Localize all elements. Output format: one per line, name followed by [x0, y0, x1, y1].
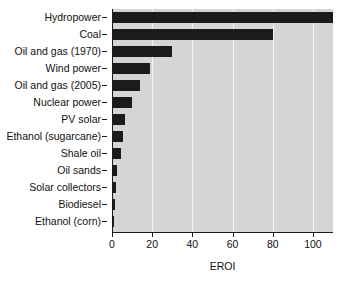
category-label: Oil and gas (2005) — [15, 77, 101, 94]
category-tick-mark — [102, 85, 107, 86]
category-tick-mark — [102, 17, 107, 18]
bar-row — [112, 213, 333, 230]
bar-row — [112, 26, 333, 43]
bar — [112, 12, 333, 23]
bar-row — [112, 77, 333, 94]
category-label: Wind power — [46, 60, 101, 77]
x-axis-tick-label: 0 — [109, 238, 115, 250]
bar-row — [112, 9, 333, 26]
category-label: Oil and gas (1970) — [15, 43, 101, 60]
x-axis-tick-label: 20 — [146, 238, 158, 250]
bar-row — [112, 179, 333, 196]
bar — [112, 46, 172, 57]
x-axis-tick — [273, 233, 274, 237]
bar-row — [112, 196, 333, 213]
bar — [112, 63, 150, 74]
x-axis-line — [112, 232, 333, 233]
category-tick-mark — [102, 34, 107, 35]
category-tick-mark — [102, 102, 107, 103]
x-axis-tick-label: 80 — [267, 238, 279, 250]
bar-row — [112, 60, 333, 77]
category-label: Ethanol (sugarcane) — [6, 128, 101, 145]
category-tick-mark — [102, 153, 107, 154]
bar-row — [112, 111, 333, 128]
eroi-bar-chart: HydropowerCoalOil and gas (1970)Wind pow… — [0, 0, 347, 284]
bar-row — [112, 162, 333, 179]
x-axis-tick — [192, 233, 193, 237]
category-label: Biodiesel — [58, 196, 101, 213]
category-label: Solar collectors — [29, 179, 101, 196]
category-label: Oil sands — [57, 162, 101, 179]
bar — [112, 131, 123, 142]
bar-row — [112, 43, 333, 60]
x-axis-tick — [112, 233, 113, 237]
x-axis-title: EROI — [112, 260, 333, 272]
category-label: Ethanol (corn) — [35, 213, 101, 230]
category-label: Hydropower — [44, 9, 101, 26]
x-axis-tick-label: 60 — [227, 238, 239, 250]
bar — [112, 29, 273, 40]
category-tick-mark — [102, 136, 107, 137]
category-label: Coal — [79, 26, 101, 43]
category-tick-mark — [102, 204, 107, 205]
category-tick-mark — [102, 221, 107, 222]
bar — [112, 97, 132, 108]
y-axis-line — [112, 9, 113, 233]
plot-area — [112, 9, 333, 232]
x-axis-tick — [152, 233, 153, 237]
bar — [112, 80, 140, 91]
category-axis-labels: HydropowerCoalOil and gas (1970)Wind pow… — [0, 9, 107, 232]
category-label: Nuclear power — [33, 94, 101, 111]
bar-row — [112, 145, 333, 162]
category-tick-mark — [102, 68, 107, 69]
bar-row — [112, 128, 333, 145]
bar-row — [112, 94, 333, 111]
category-tick-mark — [102, 51, 107, 52]
category-label: PV solar — [61, 111, 101, 128]
x-axis-tick-label: 40 — [187, 238, 199, 250]
x-axis-tick — [313, 233, 314, 237]
category-tick-mark — [102, 119, 107, 120]
category-tick-mark — [102, 187, 107, 188]
category-tick-mark — [102, 170, 107, 171]
category-label: Shale oil — [61, 145, 101, 162]
x-axis-tick — [233, 233, 234, 237]
x-axis-tick-label: 100 — [304, 238, 322, 250]
bar — [112, 148, 121, 159]
bar — [112, 114, 125, 125]
